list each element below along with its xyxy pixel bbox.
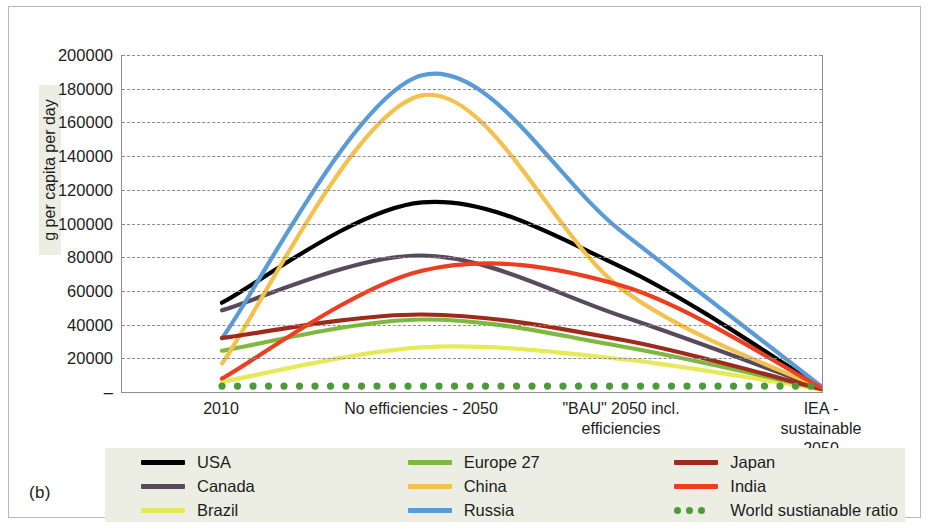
legend-label: Russia [464, 501, 514, 520]
gridlines [122, 55, 822, 392]
legend-item[interactable]: USA [105, 450, 372, 474]
y-tick-label: 100000 [58, 214, 113, 233]
legend-item[interactable]: Japan [638, 450, 905, 474]
legend-label: Japan [730, 453, 775, 472]
legend-item[interactable]: World sustianable ratio [638, 498, 905, 522]
legend-swatch-icon [141, 460, 185, 465]
legend-swatch-icon [408, 484, 452, 489]
plot-area [121, 55, 823, 393]
gridline [122, 224, 822, 225]
legend-label: Europe 27 [464, 453, 540, 472]
y-tick-label: 40000 [67, 315, 113, 334]
legend-swatch-icon [674, 484, 718, 489]
y-tick-label: 80000 [67, 248, 113, 267]
legend-swatch-icon [141, 508, 185, 513]
y-axis-tick-labels: –200004000060000800001000001200001400001… [9, 7, 121, 437]
chart-canvas: g per capita per day –200004000060000800… [9, 7, 931, 437]
legend-label: Canada [197, 477, 255, 496]
gridline [122, 325, 822, 326]
gridline [122, 190, 822, 191]
x-tick-label: 2010 [203, 399, 239, 419]
legend-item[interactable]: Russia [372, 498, 639, 522]
legend-swatch-icon [674, 460, 718, 465]
legend-item[interactable]: Europe 27 [372, 450, 639, 474]
y-tick-label: – [104, 383, 113, 402]
legend-label: USA [197, 453, 231, 472]
legend-label: India [730, 477, 766, 496]
y-tick-label: 20000 [67, 349, 113, 368]
legend-item[interactable]: China [372, 474, 639, 498]
legend-swatch-icon [408, 460, 452, 465]
legend-item[interactable]: India [638, 474, 905, 498]
legend-label: Brazil [197, 501, 238, 520]
legend-swatch-icon [408, 508, 452, 513]
x-tick-label: "BAU" 2050 incl. efficiencies [562, 399, 679, 439]
y-tick-label: 200000 [58, 46, 113, 65]
gridline [122, 257, 822, 258]
x-tick-label: No efficiencies - 2050 [344, 399, 498, 419]
figure-frame: g per capita per day –200004000060000800… [8, 6, 921, 518]
y-tick-label: 140000 [58, 147, 113, 166]
legend-item[interactable]: Brazil [105, 498, 372, 522]
gridline [122, 156, 822, 157]
y-tick-label: 120000 [58, 180, 113, 199]
panel-label: (b) [29, 483, 51, 503]
y-tick-label: 60000 [67, 281, 113, 300]
y-tick-label: 180000 [58, 79, 113, 98]
legend-label: China [464, 477, 507, 496]
legend-swatch-icon [674, 507, 718, 514]
x-axis-tick-labels: 2010No efficiencies - 2050"BAU" 2050 inc… [121, 399, 821, 443]
y-tick-label: 160000 [58, 113, 113, 132]
gridline [122, 291, 822, 292]
gridline [122, 89, 822, 90]
legend-label: World sustianable ratio [730, 501, 898, 520]
gridline [122, 122, 822, 123]
gridline [122, 358, 822, 359]
legend-item[interactable]: Canada [105, 474, 372, 498]
chart-legend: USAEurope 27JapanCanadaChinaIndiaBrazilR… [105, 448, 905, 522]
gridline [122, 55, 822, 56]
legend-swatch-icon [141, 484, 185, 489]
